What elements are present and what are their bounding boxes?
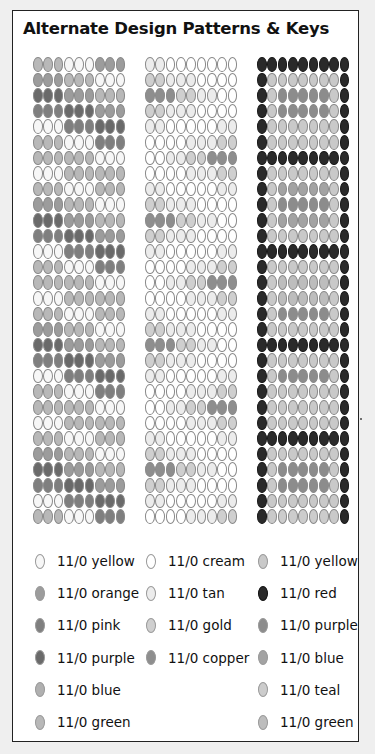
bead-pattern-middle	[145, 57, 238, 525]
bead	[95, 416, 105, 431]
bead	[278, 494, 288, 509]
bead	[43, 431, 53, 446]
bead	[298, 135, 308, 150]
bead-swatch-icon	[258, 715, 268, 730]
bead	[74, 166, 84, 181]
bead	[105, 104, 115, 119]
bead	[217, 462, 227, 477]
bead	[74, 416, 84, 431]
bead	[85, 104, 95, 119]
bead	[288, 135, 298, 150]
bead	[217, 244, 227, 259]
bead	[340, 338, 350, 353]
bead	[267, 151, 277, 166]
bead	[54, 307, 64, 322]
bead-swatch-icon	[35, 618, 45, 633]
bead-row	[33, 57, 126, 73]
bead	[309, 369, 319, 384]
bead	[64, 73, 74, 88]
bead	[267, 73, 277, 88]
bead-row	[33, 416, 126, 432]
bead	[155, 494, 165, 509]
bead	[228, 135, 238, 150]
bead	[116, 462, 126, 477]
legend-label: 11/0 gold	[168, 617, 232, 633]
bead-row	[145, 431, 238, 447]
bead	[228, 416, 238, 431]
bead-row	[145, 244, 238, 260]
legend-label: 11/0 purple	[57, 650, 135, 666]
bead	[207, 494, 217, 509]
bead	[340, 182, 350, 197]
bead-row	[257, 213, 350, 229]
bead	[228, 182, 238, 197]
bead	[197, 509, 207, 524]
bead	[340, 229, 350, 244]
bead	[309, 291, 319, 306]
bead-row	[33, 291, 126, 307]
bead	[288, 229, 298, 244]
bead	[166, 353, 176, 368]
bead	[176, 384, 186, 399]
bead	[278, 307, 288, 322]
bead	[95, 104, 105, 119]
bead	[197, 494, 207, 509]
bead	[340, 166, 350, 181]
bead	[186, 166, 196, 181]
bead	[217, 151, 227, 166]
bead-pattern-right	[257, 57, 350, 525]
bead	[298, 494, 308, 509]
bead	[186, 119, 196, 134]
bead	[105, 431, 115, 446]
bead	[74, 244, 84, 259]
bead-row	[145, 307, 238, 323]
bead-swatch-icon	[35, 554, 45, 569]
bead	[176, 369, 186, 384]
bead	[340, 57, 350, 72]
bead	[74, 369, 84, 384]
bead	[217, 73, 227, 88]
bead	[54, 260, 64, 275]
bead	[105, 307, 115, 322]
bead	[64, 447, 74, 462]
bead	[74, 135, 84, 150]
bead	[176, 88, 186, 103]
bead	[105, 322, 115, 337]
bead	[217, 431, 227, 446]
bead	[105, 260, 115, 275]
bead	[319, 88, 329, 103]
bead	[298, 260, 308, 275]
bead	[166, 416, 176, 431]
bead	[116, 369, 126, 384]
bead-row	[33, 322, 126, 338]
bead	[95, 462, 105, 477]
bead	[319, 119, 329, 134]
bead	[319, 478, 329, 493]
bead	[85, 338, 95, 353]
bead	[340, 494, 350, 509]
bead	[298, 431, 308, 446]
bead	[33, 447, 43, 462]
bead	[54, 322, 64, 337]
legend-label: 11/0 yellow	[57, 553, 135, 569]
bead	[95, 275, 105, 290]
bead	[116, 151, 126, 166]
bead	[116, 88, 126, 103]
bead	[228, 462, 238, 477]
bead	[176, 213, 186, 228]
bead	[43, 494, 53, 509]
bead	[298, 182, 308, 197]
bead-row	[33, 197, 126, 213]
bead	[228, 229, 238, 244]
bead	[95, 213, 105, 228]
bead	[105, 57, 115, 72]
bead-row	[257, 88, 350, 104]
bead	[43, 275, 53, 290]
bead	[228, 244, 238, 259]
bead	[116, 135, 126, 150]
bead	[85, 416, 95, 431]
bead-row	[257, 431, 350, 447]
bead	[329, 447, 339, 462]
bead	[197, 307, 207, 322]
bead	[43, 57, 53, 72]
